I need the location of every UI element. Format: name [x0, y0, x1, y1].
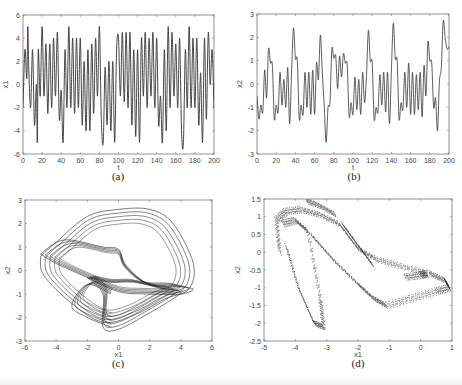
- scatter-point: [346, 273, 347, 274]
- scatter-point: [415, 298, 416, 299]
- scatter-point: [318, 241, 319, 242]
- scatter-point: [279, 219, 280, 220]
- scatter-point: [324, 329, 325, 330]
- scatter-point: [443, 277, 444, 278]
- scatter-point: [441, 285, 442, 286]
- scatter-point: [320, 324, 321, 325]
- scatter-point: [408, 273, 409, 274]
- scatter-point: [417, 279, 418, 280]
- scatter-point: [320, 208, 321, 209]
- scatter-point: [286, 223, 287, 224]
- scatter-point: [279, 246, 280, 247]
- scatter-point: [439, 280, 440, 281]
- scatter-point: [294, 271, 295, 272]
- scatter-point: [327, 215, 328, 216]
- scatter-point: [287, 223, 288, 224]
- scatter-point: [317, 287, 318, 288]
- scatter-point: [425, 295, 426, 296]
- panel-b: 020406080100120140160180200-3-2-10123tx2…: [231, 0, 462, 190]
- scatter-point: [301, 224, 302, 225]
- scatter-point: [278, 236, 279, 237]
- x-tick-label: 80: [330, 157, 338, 164]
- scatter-point: [381, 258, 382, 259]
- scatter-point: [279, 235, 280, 236]
- scatter-point: [433, 295, 434, 296]
- scatter-point: [322, 206, 323, 207]
- scatter-point: [335, 261, 336, 262]
- scatter-point: [320, 204, 321, 205]
- scatter-point: [434, 290, 435, 291]
- scatter-point: [416, 276, 417, 277]
- scatter-point: [391, 304, 392, 305]
- y-tick-label: 1: [257, 213, 261, 220]
- scatter-point: [311, 317, 312, 318]
- scatter-point: [333, 220, 334, 221]
- scatter-point: [298, 287, 299, 288]
- scatter-point: [323, 324, 324, 325]
- scatter-point: [310, 242, 311, 243]
- x-tick-label: 40: [292, 157, 300, 164]
- scatter-point: [316, 203, 317, 204]
- scatter-point: [288, 251, 289, 252]
- scatter-point: [297, 213, 298, 214]
- scatter-point: [405, 265, 406, 266]
- scatter-point: [315, 202, 316, 203]
- scatter-point: [352, 277, 353, 278]
- scatter-point: [409, 274, 410, 275]
- scatter-point: [419, 270, 420, 271]
- x-tick-label: 1: [450, 344, 454, 351]
- scatter-point: [359, 283, 360, 284]
- scatter-point: [437, 275, 438, 276]
- y-tick-label: 0: [250, 81, 254, 88]
- scatter-point: [311, 205, 312, 206]
- panel-c: -6-4-20246-3-2-10123x1x2 (c): [0, 190, 231, 385]
- scatter-point: [374, 256, 375, 257]
- scatter-point: [277, 222, 278, 223]
- scatter-point: [317, 213, 318, 214]
- scatter-point: [382, 301, 383, 302]
- scatter-point: [316, 323, 317, 324]
- scatter-point: [401, 266, 402, 267]
- scatter-point: [442, 287, 443, 288]
- scatter-point: [366, 251, 367, 252]
- y-tick-label: -3: [16, 338, 22, 345]
- scatter-point: [309, 239, 310, 240]
- y-tick-label: -6: [14, 151, 20, 158]
- scatter-point: [337, 264, 338, 265]
- scatter-point: [321, 319, 322, 320]
- scatter-point: [408, 267, 409, 268]
- x-tick-label: 60: [76, 157, 84, 164]
- scatter-point: [309, 199, 310, 200]
- scatter-point: [386, 301, 387, 302]
- scatter-point: [379, 261, 380, 262]
- scatter-point: [413, 274, 414, 275]
- scatter-point: [285, 219, 286, 220]
- scatter-point: [407, 266, 408, 267]
- scatter-point: [313, 214, 314, 215]
- scatter-point: [288, 249, 289, 250]
- scatter-point: [276, 216, 277, 217]
- scatter-point: [369, 293, 370, 294]
- scatter-point: [356, 242, 357, 243]
- scatter-point: [429, 289, 430, 290]
- scatter-point: [291, 220, 292, 221]
- scatter-point: [329, 254, 330, 255]
- scatter-point: [313, 204, 314, 205]
- scatter-point: [413, 272, 414, 273]
- scatter-point: [383, 258, 384, 259]
- scatter-point: [390, 305, 391, 306]
- scatter-point: [427, 295, 428, 296]
- scatter-point: [317, 205, 318, 206]
- scatter-point: [388, 303, 389, 304]
- scatter-point: [309, 310, 310, 311]
- scatter-point: [319, 243, 320, 244]
- scatter-point: [319, 208, 320, 209]
- scatter-point: [394, 265, 395, 266]
- scatter-point: [314, 323, 315, 324]
- scatter-point: [297, 210, 298, 211]
- scatter-point: [299, 211, 300, 212]
- scatter-point: [298, 287, 299, 288]
- scatter-point: [407, 299, 408, 300]
- scatter-point: [294, 275, 295, 276]
- scatter-point: [286, 215, 287, 216]
